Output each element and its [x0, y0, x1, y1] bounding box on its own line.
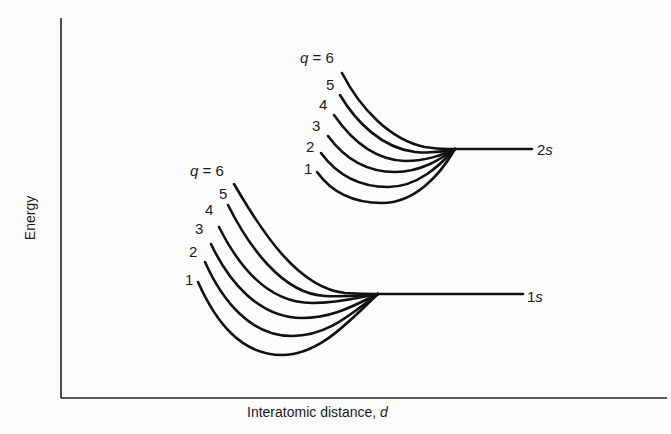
label-1s-q2: 2 — [189, 244, 197, 259]
label-1s-q5: 5 — [219, 186, 227, 201]
label-2s-q2: 2 — [306, 139, 314, 154]
x-axis-variable: d — [380, 404, 388, 420]
label-2s-q6: q = 6 — [300, 50, 334, 65]
curve-2s-q5 — [340, 95, 455, 153]
curve-2s-q6 — [342, 73, 455, 149]
energy-diagram — [0, 0, 671, 434]
curve-2s-q2 — [321, 149, 455, 187]
label-1s-q1: 1 — [185, 272, 193, 287]
label-2s-q3: 3 — [312, 118, 320, 133]
label-2s-q4: 4 — [319, 97, 327, 112]
x-axis-label-text: Interatomic distance, — [247, 404, 380, 420]
y-axis-label: Energy — [22, 196, 38, 240]
label-2s-q5: 5 — [326, 77, 334, 92]
x-axis-label: Interatomic distance, d — [247, 404, 388, 420]
curve-2s-q4 — [334, 115, 455, 161]
label-1s: 1s — [527, 289, 543, 304]
label-1s-q3: 3 — [195, 221, 203, 236]
curve-1s-q5 — [228, 205, 378, 296]
upper-level-curves — [317, 73, 532, 203]
lower-level-curves — [198, 184, 523, 355]
label-1s-q6: q q = 6= 6 — [190, 163, 224, 178]
label-2s: 2s — [537, 142, 553, 157]
label-2s-q1: 1 — [304, 161, 312, 176]
label-1s-q4: 4 — [205, 202, 213, 217]
